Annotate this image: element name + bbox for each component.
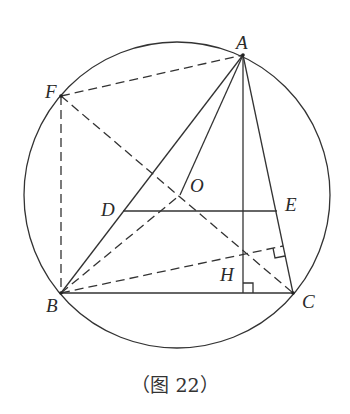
label-F: F	[45, 82, 57, 101]
label-A: A	[236, 33, 248, 52]
label-B: B	[46, 296, 58, 315]
label-D: D	[101, 200, 115, 219]
label-O: O	[190, 176, 204, 195]
segment-AC	[243, 55, 293, 293]
label-H: H	[220, 265, 234, 284]
dashed-BO	[61, 195, 180, 293]
label-C: C	[302, 292, 315, 311]
right-angle-mark-altitude	[243, 283, 253, 293]
label-E: E	[285, 195, 297, 214]
geometry-figure	[0, 0, 350, 414]
figure-caption: （图 22）	[0, 370, 350, 397]
dashed-BH	[61, 246, 283, 293]
